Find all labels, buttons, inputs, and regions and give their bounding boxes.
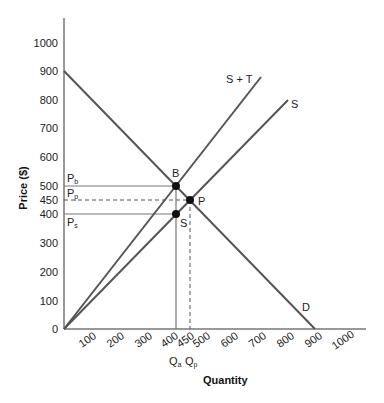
y-tick: 500	[40, 180, 58, 192]
x-tick: 500	[190, 329, 212, 349]
y-axis-title: Price ($)	[17, 166, 29, 210]
y-tick: 600	[40, 151, 58, 163]
ps-label: Ps	[67, 216, 78, 229]
y-tick: 1000	[34, 37, 58, 49]
x-tick: 700	[246, 329, 268, 349]
x-tick: 100	[76, 329, 98, 349]
pb-label: Pb	[67, 172, 78, 185]
y-tick: 900	[40, 65, 58, 77]
point-p-label: P	[198, 195, 205, 207]
point-p	[186, 196, 194, 204]
y-tick: 800	[40, 94, 58, 106]
x-tick-labels: 100 200 300 400 450 500 600 700 800 900 …	[76, 328, 356, 352]
y-tick: 0	[52, 323, 58, 335]
y-tick-labels: 0 100 200 300 400 450 500 600 700 800 90…	[34, 37, 58, 335]
qp-label: Qp	[185, 355, 198, 369]
y-tick: 200	[40, 266, 58, 278]
demand-label: D	[302, 301, 310, 313]
y-tick: 400	[40, 208, 58, 220]
point-b	[172, 182, 180, 190]
pp-label: Pp	[67, 187, 78, 201]
supply-label: S	[291, 98, 298, 110]
x-tick: 600	[218, 329, 240, 349]
x-tick: 800	[274, 329, 296, 349]
x-tick: 200	[104, 329, 126, 349]
y-tick: 700	[40, 122, 58, 134]
qa-label: Qa	[169, 355, 182, 368]
supply-plus-tax-curve	[64, 77, 261, 329]
supply-demand-chart: 0 100 200 300 400 450 500 600 700 800 90…	[0, 0, 384, 403]
x-tick: 900	[302, 329, 324, 349]
x-axis-title: Quantity	[203, 374, 248, 386]
point-s	[172, 210, 180, 218]
point-s-label: S	[180, 217, 187, 229]
y-tick: 100	[40, 295, 58, 307]
x-tick: 300	[132, 329, 154, 349]
supply-plus-tax-label: S + T	[226, 73, 253, 85]
y-tick: 450	[40, 194, 58, 206]
x-tick: 1000	[329, 328, 356, 352]
point-b-label: B	[172, 167, 179, 179]
y-tick: 300	[40, 237, 58, 249]
